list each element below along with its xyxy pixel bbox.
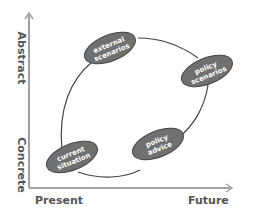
node-external-scenarios: external scenarios <box>80 26 140 70</box>
x-axis <box>29 184 232 192</box>
x-axis-right-label: Future <box>188 194 229 207</box>
x-axis-left-label: Present <box>35 194 83 207</box>
y-axis-bottom-label: Concrete <box>15 137 28 193</box>
node-policy-advice: policy advice <box>128 122 188 166</box>
diagram-canvas: Abstract Concrete Present Future externa… <box>0 0 256 212</box>
y-axis-top-label: Abstract <box>15 32 28 85</box>
node-current-situation: current situation <box>42 135 102 179</box>
node-policy-scenarios: policy scenarios <box>177 49 237 93</box>
